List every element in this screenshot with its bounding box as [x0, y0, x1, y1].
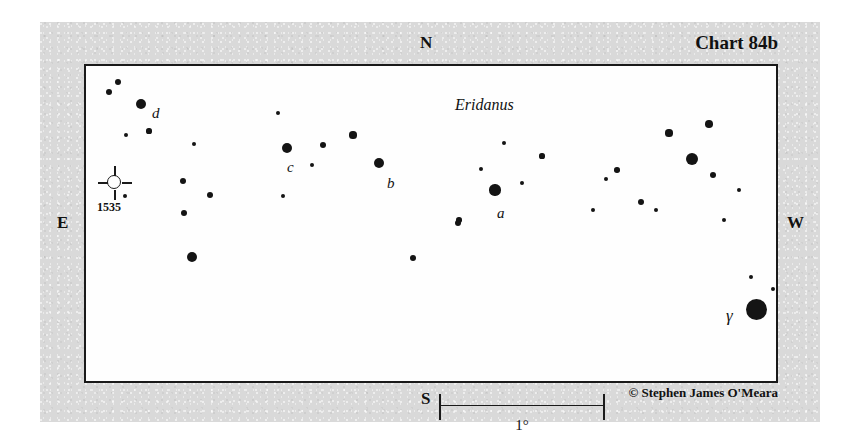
star-field-frame: dcbaγ Eridanus 1535 1° — [84, 64, 778, 383]
star-point — [124, 133, 128, 137]
planetary-nebula-label: 1535 — [97, 201, 121, 213]
star-point — [614, 167, 620, 173]
star-point — [276, 111, 280, 115]
star-point — [539, 153, 544, 158]
planetary-nebula-icon — [98, 166, 132, 200]
star-point — [710, 172, 717, 179]
star-point — [136, 99, 146, 109]
cardinal-direction-south: S — [421, 390, 430, 407]
star-point — [207, 192, 213, 198]
star-point — [282, 143, 292, 153]
star-point — [665, 129, 672, 136]
star-point — [502, 141, 506, 145]
star-point — [115, 79, 121, 85]
cardinal-direction-north: N — [420, 34, 432, 51]
star-point — [106, 89, 112, 95]
star-field: dcbaγ — [86, 66, 776, 381]
star-point — [705, 120, 713, 128]
nebula-tick-bottom — [114, 190, 116, 200]
star-point — [187, 252, 197, 262]
star-point — [410, 255, 416, 261]
star-point — [281, 194, 285, 198]
cardinal-direction-west: W — [787, 214, 804, 231]
star-point — [771, 287, 775, 291]
star-point — [746, 299, 767, 320]
star-point — [654, 208, 659, 213]
star-point — [180, 178, 187, 185]
nebula-tick-left — [98, 182, 108, 184]
star-chart-page: N S E W Chart 84b © Stephen James O'Mear… — [0, 0, 850, 443]
copyright-credit: © Stephen James O'Meara — [629, 386, 778, 399]
star-point — [479, 167, 483, 171]
star-point — [374, 158, 384, 168]
star-designation-label: c — [287, 160, 294, 175]
star-designation-label: d — [152, 106, 160, 121]
scale-bar-label: 1° — [439, 418, 605, 433]
star-point — [604, 177, 608, 181]
star-point — [192, 142, 196, 146]
star-point — [686, 153, 699, 166]
star-point — [146, 128, 151, 133]
chart-title: Chart 84b — [695, 33, 778, 52]
nebula-circle — [107, 175, 121, 189]
cardinal-direction-east: E — [57, 214, 68, 231]
star-point — [591, 208, 595, 212]
star-point — [520, 181, 525, 186]
star-point — [737, 188, 742, 193]
star-designation-label: a — [497, 206, 505, 221]
star-designation-label: b — [387, 176, 395, 191]
star-designation-label: γ — [726, 307, 733, 324]
nebula-tick-top — [114, 166, 116, 176]
star-point — [320, 142, 327, 149]
star-point — [489, 184, 500, 195]
star-point — [749, 275, 754, 280]
scale-bar-rule — [439, 405, 605, 406]
star-point — [722, 218, 727, 223]
nebula-tick-right — [122, 182, 132, 184]
constellation-label: Eridanus — [455, 97, 514, 113]
star-point — [349, 131, 356, 138]
star-point — [310, 163, 314, 167]
scale-bar-cap-left — [439, 394, 441, 420]
star-point — [456, 217, 462, 223]
star-point — [638, 199, 645, 206]
star-point — [181, 210, 187, 216]
scale-bar-cap-right — [603, 394, 605, 420]
